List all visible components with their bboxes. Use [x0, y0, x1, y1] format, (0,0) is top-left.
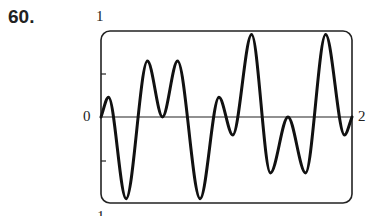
plot-area — [0, 0, 373, 216]
function-curve — [101, 34, 352, 198]
